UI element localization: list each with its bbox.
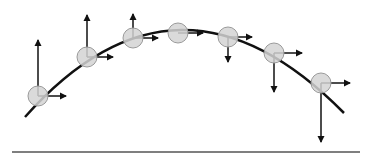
projectile-ball-3: [123, 28, 143, 48]
projectile-ball-2: [77, 47, 97, 67]
projectile-ball-6: [264, 43, 284, 63]
projectile-ball-1: [28, 86, 48, 106]
projectile-ball-4: [168, 23, 188, 43]
projectile-ball-5: [218, 27, 238, 47]
projectile-diagram: [0, 0, 372, 158]
trajectory-curve: [25, 30, 344, 117]
diagram-canvas: [0, 0, 372, 158]
projectile-ball-7: [311, 73, 331, 93]
